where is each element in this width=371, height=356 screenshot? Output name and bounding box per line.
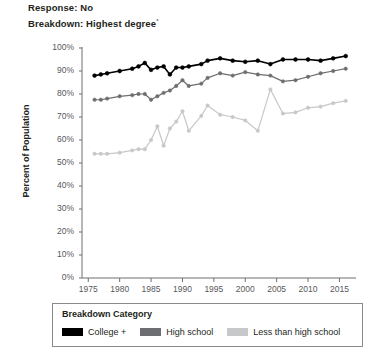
data-point-marker	[344, 54, 348, 58]
data-point-marker	[118, 151, 121, 154]
data-point-marker	[168, 127, 171, 130]
data-point-marker	[137, 65, 141, 69]
data-point-marker	[268, 62, 272, 66]
data-point-marker	[162, 91, 165, 94]
data-point-marker	[93, 152, 96, 155]
legend-item[interactable]: High school	[140, 327, 213, 337]
data-point-marker	[99, 73, 103, 77]
data-point-marker	[93, 98, 96, 101]
legend-item[interactable]: Less than high school	[227, 327, 340, 337]
data-point-marker	[99, 98, 102, 101]
data-point-marker	[118, 95, 121, 98]
data-point-marker	[218, 113, 221, 116]
data-point-marker	[174, 120, 177, 123]
data-point-marker	[281, 58, 285, 62]
y-tick-label: 40%	[40, 180, 74, 190]
data-point-marker	[199, 62, 203, 66]
legend-item-label: Less than high school	[253, 327, 340, 337]
data-point-marker	[137, 148, 140, 151]
y-tick-label: 60%	[40, 134, 74, 144]
legend: Breakdown Category College +High schoolL…	[52, 303, 363, 347]
series-1	[93, 67, 348, 101]
data-point-marker	[306, 58, 310, 62]
data-point-marker	[143, 92, 146, 95]
data-point-marker	[168, 89, 171, 92]
y-tick-label: 30%	[40, 203, 74, 213]
data-point-marker	[218, 56, 222, 60]
data-point-marker	[174, 84, 177, 87]
y-tick-label: 0%	[40, 272, 74, 282]
response-line: Response: No	[28, 2, 358, 15]
data-point-marker	[231, 59, 235, 63]
data-point-marker	[281, 112, 284, 115]
data-point-marker	[319, 72, 322, 75]
data-point-marker	[187, 84, 190, 87]
y-tick-label: 10%	[40, 249, 74, 259]
data-point-marker	[269, 74, 272, 77]
y-tick-label: 80%	[40, 88, 74, 98]
breakdown-text: Breakdown: Highest degree	[28, 18, 156, 29]
series-2	[93, 88, 348, 156]
data-point-marker	[200, 114, 203, 117]
chart-page: Response: No Breakdown: Highest degree° …	[0, 0, 371, 356]
data-point-marker	[206, 59, 210, 63]
data-point-marker	[243, 60, 247, 64]
data-point-marker	[269, 88, 272, 91]
legend-swatch-icon	[62, 328, 83, 336]
data-point-marker	[130, 67, 134, 71]
y-tick-label: 90%	[40, 65, 74, 75]
series-line	[95, 89, 346, 153]
data-point-marker	[319, 59, 323, 63]
data-point-marker	[143, 148, 146, 151]
data-point-marker	[149, 98, 152, 101]
legend-item-label: College +	[88, 327, 126, 337]
data-point-marker	[206, 104, 209, 107]
data-point-marker	[143, 61, 147, 65]
data-point-marker	[187, 65, 191, 69]
data-point-marker	[105, 71, 109, 75]
chart-plot-area: Percent of Population 0%10%20%30%40%50%6…	[0, 28, 371, 296]
y-tick-label: 20%	[40, 226, 74, 236]
data-point-marker	[149, 138, 152, 141]
data-point-marker	[344, 67, 347, 70]
data-point-marker	[105, 97, 108, 100]
data-point-marker	[174, 66, 178, 70]
y-tick-label: 70%	[40, 111, 74, 121]
data-point-marker	[344, 99, 347, 102]
data-point-marker	[256, 59, 260, 63]
data-point-marker	[206, 76, 209, 79]
legend-title: Breakdown Category	[62, 309, 152, 319]
legend-item[interactable]: College +	[62, 327, 126, 337]
data-point-marker	[118, 69, 122, 73]
data-point-marker	[306, 106, 309, 109]
data-point-marker	[131, 93, 134, 96]
data-point-marker	[331, 69, 334, 72]
legend-items: College +High schoolLess than high schoo…	[62, 327, 354, 337]
data-point-marker	[306, 75, 309, 78]
x-tick-label: 2015	[319, 284, 359, 294]
data-point-marker	[294, 111, 297, 114]
data-point-marker	[331, 56, 335, 60]
y-tick-label: 100%	[40, 42, 74, 52]
data-point-marker	[231, 74, 234, 77]
legend-swatch-icon	[140, 328, 161, 336]
data-point-marker	[331, 102, 334, 105]
data-point-marker	[181, 110, 184, 113]
data-point-marker	[181, 79, 184, 82]
data-point-marker	[156, 95, 159, 98]
y-tick-label: 50%	[40, 157, 74, 167]
data-point-marker	[319, 105, 322, 108]
data-point-marker	[244, 119, 247, 122]
data-point-marker	[256, 129, 259, 132]
data-point-marker	[168, 73, 172, 77]
data-point-marker	[162, 144, 165, 147]
legend-item-label: High school	[166, 327, 213, 337]
data-point-marker	[200, 82, 203, 85]
data-point-marker	[156, 125, 159, 128]
data-point-marker	[149, 68, 153, 72]
chart-header: Response: No Breakdown: Highest degree°	[28, 2, 358, 30]
data-point-marker	[218, 72, 221, 75]
data-point-marker	[187, 129, 190, 132]
data-point-marker	[294, 79, 297, 82]
data-point-marker	[99, 152, 102, 155]
